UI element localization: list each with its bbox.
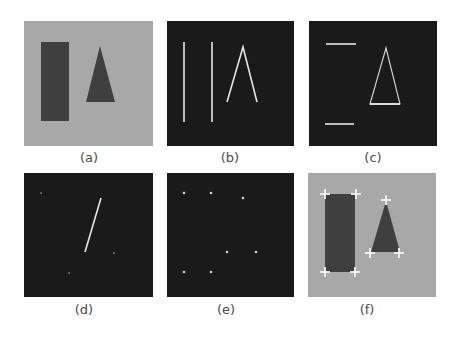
dark-rectangle <box>325 194 355 272</box>
panel-c-horizontal-edges <box>309 21 437 146</box>
panel-d-diagonal-edge <box>24 173 153 297</box>
panel-d-graphic <box>24 173 153 297</box>
caption-b: (b) <box>200 150 260 165</box>
caption-d: (d) <box>54 302 114 317</box>
corner-point <box>226 251 229 254</box>
corner-point <box>210 192 213 195</box>
faint-dot <box>113 252 115 254</box>
panel-e-corner-points <box>167 173 294 297</box>
panel-a-graphic <box>24 21 153 146</box>
corner-point <box>183 271 186 274</box>
caption-c: (c) <box>343 150 403 165</box>
panel-f-graphic <box>308 173 436 297</box>
caption-e: (e) <box>196 302 256 317</box>
corner-point <box>255 251 258 254</box>
faint-dot <box>68 272 70 274</box>
caption-a: (a) <box>59 150 119 165</box>
panel-b-vertical-edges <box>167 21 294 146</box>
dark-rectangle <box>41 42 69 121</box>
corner-point <box>210 271 213 274</box>
dark-background <box>167 21 294 146</box>
dark-background <box>24 173 153 297</box>
corner-point <box>242 197 245 200</box>
dark-background <box>167 173 294 297</box>
panel-e-graphic <box>167 173 294 297</box>
dark-background <box>309 21 437 146</box>
corner-point <box>183 192 186 195</box>
panel-f-detected-corners <box>308 173 436 297</box>
faint-dot <box>40 192 42 194</box>
caption-f: (f) <box>337 302 397 317</box>
panel-c-graphic <box>309 21 437 146</box>
panel-b-graphic <box>167 21 294 146</box>
panel-a-original-image <box>24 21 153 146</box>
